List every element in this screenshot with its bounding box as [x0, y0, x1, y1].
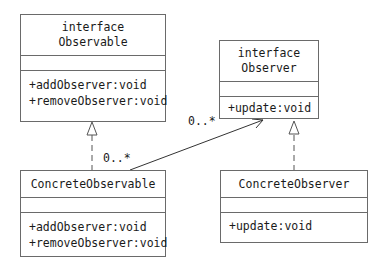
operations-compartment: +addObserver:void +removeObserver:void: [21, 213, 165, 251]
class-name: Observer: [241, 61, 296, 76]
class-header: interface Observer: [220, 41, 318, 82]
stereotype-label: interface: [62, 20, 124, 35]
class-header: interface Observable: [21, 15, 165, 56]
attributes-compartment: [221, 198, 367, 213]
attributes-compartment: [220, 82, 318, 97]
operations-compartment: +update:void: [220, 97, 318, 116]
class-observer: interface Observer +update:void: [219, 40, 319, 119]
class-name: ConcreteObserver: [239, 177, 350, 192]
operation: +update:void: [228, 100, 318, 116]
operation: +addObserver:void: [29, 219, 165, 235]
operation: +removeObserver:void: [29, 235, 165, 251]
operations-compartment: +addObserver:void +removeObserver:void: [21, 71, 165, 109]
attributes-compartment: [21, 56, 165, 71]
operation: +removeObserver:void: [29, 93, 165, 109]
class-concrete-observer: ConcreteObserver +update:void: [220, 170, 368, 243]
class-header: ConcreteObserver: [221, 171, 367, 198]
source-multiplicity: 0..*: [103, 151, 131, 165]
operations-compartment: +update:void: [221, 213, 367, 234]
target-multiplicity: 0..*: [188, 114, 216, 128]
class-concrete-observable: ConcreteObservable +addObserver:void +re…: [20, 170, 166, 257]
operation: +update:void: [229, 218, 367, 234]
operation: +addObserver:void: [29, 77, 165, 93]
class-name: Observable: [58, 35, 127, 50]
realization-triangle-icon: [87, 122, 97, 135]
class-name: ConcreteObservable: [31, 177, 156, 192]
class-observable: interface Observable +addObserver:void +…: [20, 14, 166, 122]
realization-triangle-icon: [289, 121, 299, 134]
stereotype-label: interface: [238, 46, 300, 61]
attributes-compartment: [21, 198, 165, 213]
class-header: ConcreteObservable: [21, 171, 165, 198]
